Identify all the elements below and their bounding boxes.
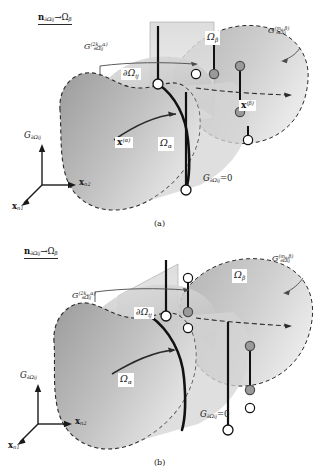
figure-root: n∂Ωij→Ωβ G(2kα,α)∂Ωij G(mβ,β)∂Ωij ∂Ωij Ω… — [0, 0, 326, 476]
panel-a-graphic — [0, 0, 326, 238]
normal-target-a: Ω — [62, 12, 69, 22]
panel-b: n∂Ωij→Ωβ G(2kα,α)∂Ωij G(mβ,β)∂Ωij ∂Ωij Ω… — [0, 238, 326, 476]
normal-arrow-a: → — [54, 12, 61, 22]
normal-arrow-b: → — [40, 246, 47, 256]
normal-target-sub-b: β — [55, 250, 58, 256]
caption-b: (b) — [154, 458, 165, 467]
panel-a: n∂Ωij→Ωβ G(2kα,α)∂Ωij G(mβ,β)∂Ωij ∂Ωij Ω… — [0, 0, 326, 238]
normal-target-sub-a: β — [69, 16, 72, 22]
normal-target-b: Ω — [48, 246, 55, 256]
normal-direction-label-a: n∂Ωij→Ωβ — [38, 12, 72, 25]
panel-b-graphic — [0, 238, 326, 476]
normal-direction-label-b: n∂Ωij→Ωβ — [24, 246, 58, 259]
caption-a: (a) — [154, 219, 165, 228]
